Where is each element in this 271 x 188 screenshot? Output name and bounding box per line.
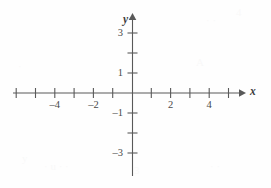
- y-tick-label--1: –1: [112, 107, 124, 118]
- y-tick-label-3: 3: [118, 27, 123, 38]
- y-tick-label--3: –3: [112, 147, 124, 158]
- x-axis-label: x: [249, 85, 256, 97]
- x-tick-label-4: 4: [207, 99, 213, 110]
- coordinate-plane-figure: 4 · · A · y · u · · 3 · ·: [0, 0, 271, 188]
- x-tick-label--4: –4: [49, 99, 61, 110]
- x-tick-label-2: 2: [168, 99, 173, 110]
- plot-area: –4 –2 2 4 3 1 –1 –3 x y: [0, 0, 271, 188]
- y-axis-label: y: [121, 13, 129, 26]
- y-axis-arrow-icon: [129, 13, 137, 20]
- x-axis-arrow-icon: [239, 89, 246, 97]
- x-axis-tick-labels: –4 –2 2 4: [49, 99, 213, 110]
- x-tick-label--2: –2: [87, 99, 99, 110]
- y-tick-label-1: 1: [118, 67, 123, 78]
